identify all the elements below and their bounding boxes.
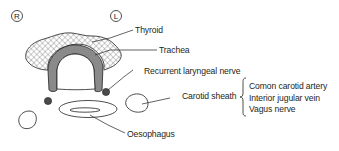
neck-cross-section-diagram: R L Thyroid Trachea Recurrent laryngeal … — [0, 0, 339, 151]
carotid-content-item: Vagus nerve — [249, 104, 296, 114]
oesophagus-lumen — [70, 108, 100, 112]
trachea-label: Trachea — [159, 45, 190, 55]
recurrent-laryngeal-nerve-right — [44, 97, 51, 104]
thyroid-label: Thyroid — [135, 25, 163, 35]
carotid-sheath-label: Carotid sheath — [182, 91, 237, 101]
recurrent-laryngeal-nerve-label: Recurrent laryngeal nerve — [144, 66, 241, 76]
left-side-marker: L — [111, 11, 122, 22]
right-side-marker: R — [12, 11, 23, 22]
svg-text:L: L — [114, 12, 119, 21]
carotid-content-item: Comon carotid artery — [249, 81, 328, 91]
carotid-sheath-brace — [240, 78, 246, 116]
carotid-sheath-left — [126, 94, 148, 112]
oesophagus-label: Oesophagus — [127, 129, 175, 139]
carotid-content-item: Interior jugular vein — [249, 93, 320, 103]
carotid-sheath-right — [19, 111, 37, 129]
trachea-lumen — [57, 54, 95, 90]
svg-text:R: R — [14, 12, 20, 21]
